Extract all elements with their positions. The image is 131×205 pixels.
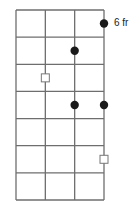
hollow-square-icon (100, 155, 108, 163)
hollow-square-icon (41, 74, 49, 82)
fret-grid (16, 10, 104, 200)
finger-dot-icon (70, 101, 78, 109)
fretboard-diagram (0, 0, 131, 205)
finger-dot-icon (100, 101, 108, 109)
finger-dot-icon (70, 47, 78, 55)
finger-dot-icon (100, 19, 108, 27)
fret-position-label: 6 fr (114, 17, 128, 28)
